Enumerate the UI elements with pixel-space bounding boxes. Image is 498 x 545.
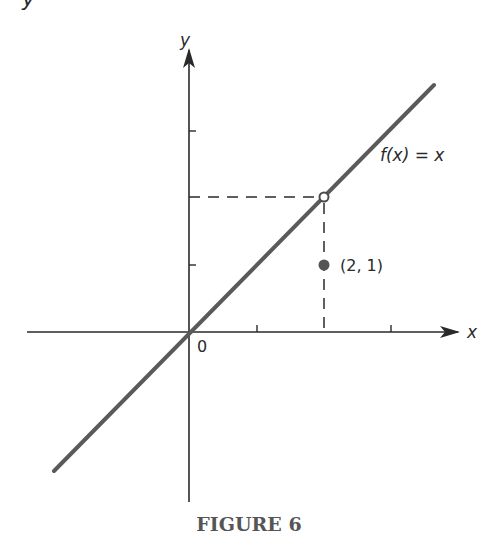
function-line — [54, 85, 434, 471]
filled-point — [319, 260, 330, 271]
point-label: (2, 1) — [340, 256, 383, 275]
figure-caption: FIGURE 6 — [196, 513, 301, 535]
top-text-fragment: y — [21, 0, 36, 11]
open-circle-point — [320, 193, 329, 202]
function-graph: y y x 0 f(x) = x (2, 1) FIGURE 6 — [0, 0, 498, 545]
function-label: f(x) = x — [380, 145, 445, 165]
x-axis-label: x — [466, 322, 478, 342]
y-axis-label: y — [179, 30, 191, 50]
y-ticks — [189, 131, 196, 265]
origin-label: 0 — [197, 337, 207, 356]
